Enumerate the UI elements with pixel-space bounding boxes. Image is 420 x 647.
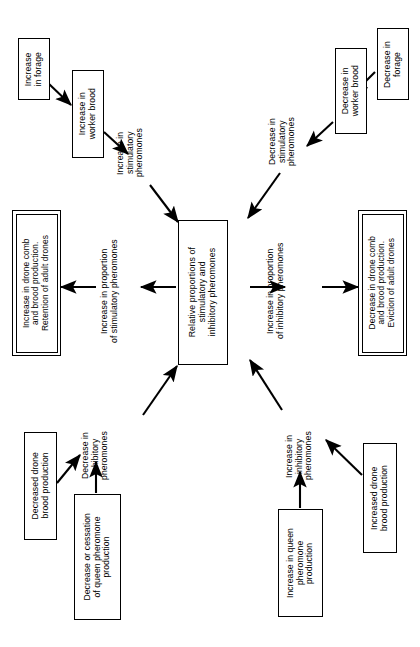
node-decrease-in-forage[interactable]: Decrease in forage — [377, 28, 409, 100]
edge-decreased-drone-brood-to-inhibitory — [57, 455, 80, 483]
node-increase-in-forage-label: Increase in forage — [24, 52, 43, 86]
node-increase-drone-comb-label: Increase in drone comb and brood product… — [22, 235, 50, 331]
node-center-relative-proportions[interactable]: Relative proportions of stimulatory and … — [178, 220, 228, 365]
node-increase-drone-comb-inner: Increase in drone comb and brood product… — [16, 214, 58, 353]
edge-decrease-inhibitory-to-center — [143, 366, 177, 415]
node-decrease-in-worker-brood-label: Decrease in worker brood — [341, 65, 360, 116]
node-decrease-in-worker-brood[interactable]: Decrease in worker brood — [335, 48, 367, 134]
edge-label-increase-proportion-stimulatory: Increase in proportion of stimulatory ph… — [100, 227, 119, 355]
node-increase-in-worker-brood[interactable]: Increase in worker brood — [72, 70, 104, 158]
edge-increased-drone-brood-to-inhibitory — [326, 440, 362, 475]
diagram-canvas: Increase in forage Increase in worker br… — [0, 0, 420, 647]
edge-label-increase-proportion-inhibitory: Increase in proportion of inhibitory phe… — [266, 227, 285, 355]
node-decreased-drone-brood-production-label: Decreased drone brood production — [31, 452, 50, 519]
node-increase-in-worker-brood-label: Increase in worker brood — [78, 88, 97, 139]
edge-label-decrease-stimulatory-pheromones: Decrease in stimulatory pheromones — [268, 106, 297, 178]
edge-label-decrease-inhibitory-pheromones: Decrease in inhibitory pheromones — [81, 418, 110, 494]
node-increased-drone-brood-production[interactable]: Increased drone brood production — [363, 443, 397, 553]
node-increased-drone-brood-production-label: Increased drone brood production — [370, 465, 389, 531]
node-decreased-drone-brood-production[interactable]: Decreased drone brood production — [24, 432, 57, 540]
edge-forage-to-worker-brood — [48, 83, 71, 105]
node-decrease-in-forage-label: Decrease in forage — [383, 41, 402, 88]
node-increase-queen-pheromone-production-label: Increase in queen pheromone production — [286, 528, 315, 598]
node-center-label: Relative proportions of stimulatory and … — [188, 247, 218, 337]
node-decrease-drone-comb[interactable]: Decrease in drone comb and brood product… — [358, 210, 407, 356]
node-increase-in-forage[interactable]: Increase in forage — [18, 38, 50, 100]
edge-decrease-stimulatory-to-center — [248, 173, 280, 218]
edge-label-increase-inhibitory-pheromones: Increase in inhibitory pheromones — [285, 418, 314, 494]
node-increase-drone-comb[interactable]: Increase in drone comb and brood product… — [12, 210, 61, 356]
edge-decrease-worker-brood-to-stimulatory — [307, 122, 333, 146]
node-decrease-queen-pheromone-production-label: Decrease or cessation of queen pheromone… — [83, 513, 112, 601]
edge-stimulatory-to-center — [150, 185, 178, 222]
node-decrease-queen-pheromone-production[interactable]: Decrease or cessation of queen pheromone… — [74, 494, 121, 620]
edge-increase-inhibitory-to-center — [250, 360, 282, 410]
edge-label-increase-stimulatory-pheromones: Increase in stimulatory pheromones — [116, 118, 145, 188]
node-decrease-drone-comb-label: Decrease in drone comb and brood product… — [368, 236, 396, 329]
node-increase-queen-pheromone-production[interactable]: Increase in queen pheromone production — [278, 509, 323, 617]
node-decrease-drone-comb-inner: Decrease in drone comb and brood product… — [362, 214, 404, 353]
